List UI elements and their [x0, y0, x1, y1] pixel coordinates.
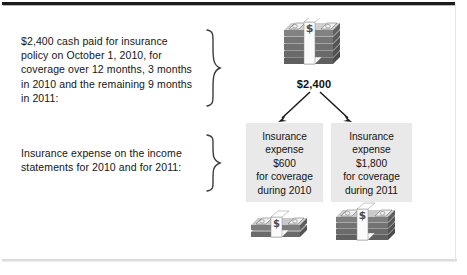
cash-stack-600-icon: $	[248, 206, 310, 248]
cash-stack-2400-icon: $	[281, 18, 343, 76]
curly-brace-bottom-icon	[203, 133, 225, 193]
svg-text:$: $	[306, 22, 314, 35]
expense-box-2010: Insurance expense $600 for coverage duri…	[246, 123, 323, 202]
caption-insurance-expense: Insurance expense on the income statemen…	[21, 146, 207, 174]
caption-cash-paid: $2,400 cash paid for insurance policy on…	[21, 34, 203, 105]
frame-bottom-border-inner	[2, 261, 457, 262]
cash-total-label: $2,400	[283, 78, 345, 90]
frame-top-shadow	[3, 5, 456, 6]
frame-right-border	[455, 4, 456, 260]
svg-text:$: $	[273, 218, 280, 229]
insurance-allocation-figure: $2,400 cash paid for insurance policy on…	[0, 0, 467, 275]
cash-stack-1800-icon: $	[333, 199, 399, 251]
expense-box-2011: Insurance expense $1,800 for coverage du…	[331, 123, 412, 202]
svg-text:$: $	[359, 209, 366, 221]
curly-brace-top-icon	[203, 28, 225, 108]
